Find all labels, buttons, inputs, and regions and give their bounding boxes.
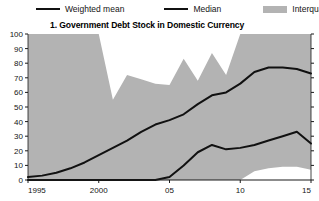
y-tick-label: 20 bbox=[14, 147, 23, 156]
y-tick-label: 70 bbox=[14, 74, 23, 83]
band-swatch-icon bbox=[263, 6, 287, 13]
y-tick-label: 80 bbox=[14, 59, 23, 68]
x-tick-label: 1995 bbox=[28, 186, 46, 195]
y-tick-label: 100 bbox=[10, 30, 24, 39]
legend-label-weighted-mean: Weighted mean bbox=[65, 5, 124, 14]
figure-container: Weighted mean Median Interquartile range… bbox=[0, 0, 319, 201]
legend-label-median: Median bbox=[193, 5, 221, 14]
y-tick-label: 50 bbox=[14, 103, 23, 112]
chart-legend: Weighted mean Median Interquartile range bbox=[0, 0, 319, 18]
y-tick-label: 40 bbox=[14, 118, 23, 127]
legend-item-median: Median bbox=[164, 5, 221, 14]
legend-label-interquartile-range: Interquartile range bbox=[292, 5, 319, 14]
interquartile-area bbox=[28, 34, 311, 180]
x-tick-label: 15 bbox=[302, 186, 311, 195]
x-tick-label: 2000 bbox=[90, 186, 108, 195]
x-tick-label: 10 bbox=[236, 186, 245, 195]
chart-title: 1. Government Debt Stock in Domestic Cur… bbox=[50, 20, 244, 30]
line-swatch-icon bbox=[164, 8, 188, 10]
legend-item-weighted-mean: Weighted mean bbox=[36, 5, 124, 14]
line-swatch-icon bbox=[36, 8, 60, 10]
y-tick-label: 0 bbox=[19, 176, 24, 185]
y-tick-label: 60 bbox=[14, 88, 23, 97]
y-tick-label: 30 bbox=[14, 132, 23, 141]
y-tick-label: 10 bbox=[14, 161, 23, 170]
legend-item-interquartile-range: Interquartile range bbox=[263, 5, 319, 14]
chart-plot: 0102030405060708090100 19952000051015 bbox=[0, 0, 319, 201]
x-tick-label: 05 bbox=[165, 186, 174, 195]
interquartile-band bbox=[28, 34, 311, 180]
x-axis: 19952000051015 bbox=[28, 180, 312, 195]
y-tick-label: 90 bbox=[14, 45, 23, 54]
